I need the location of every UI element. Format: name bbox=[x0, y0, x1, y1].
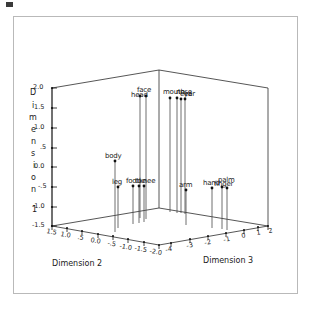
axis-box bbox=[52, 70, 268, 245]
axis-title-dim1-char-7: o bbox=[31, 174, 36, 182]
tick-label-dim3-3: -1 bbox=[223, 236, 231, 244]
tick-label-dim1-0: 2.0 bbox=[33, 84, 43, 91]
marker-mouth bbox=[169, 97, 172, 100]
marker-leg bbox=[117, 186, 120, 189]
point-label-finger: finger bbox=[214, 180, 233, 188]
axis-title-dimension-2: Dimension 2 bbox=[52, 259, 102, 268]
tick-label-dim2-2: .5 bbox=[77, 234, 84, 242]
point-label-body: body bbox=[105, 152, 122, 160]
box-edge-top-right bbox=[159, 70, 268, 88]
tick-label-dim3-2: -2 bbox=[204, 239, 212, 247]
tick-label-dim3-1: -3 bbox=[186, 242, 194, 250]
marker-toe bbox=[138, 185, 141, 188]
axis-title-dim1-char-8: n bbox=[31, 186, 36, 194]
tick-label-dim2-4: -.5 bbox=[107, 240, 117, 248]
point-label-ear: ear bbox=[184, 90, 195, 98]
tick-label-dim1-2: 1.0 bbox=[34, 124, 44, 131]
marker-eye bbox=[180, 98, 183, 101]
scatter3d-canvas bbox=[0, 0, 313, 309]
point-label-arm: arm bbox=[179, 181, 192, 189]
tick-label-dim1-4: 0.0 bbox=[34, 163, 44, 170]
marker-arm bbox=[185, 189, 188, 192]
tick-label-dim3-0: -4 bbox=[165, 246, 173, 254]
marker-foot bbox=[132, 185, 135, 188]
axis-title-dim1-char-5: s bbox=[31, 150, 35, 158]
stem-lines bbox=[115, 96, 227, 232]
tick-label-dim1-1: 1.5 bbox=[34, 104, 44, 111]
axis-title-dim1-char-4: n bbox=[31, 138, 36, 146]
box-edge-floor-back-right bbox=[159, 208, 268, 226]
tick-label-dim1-5: -.5 bbox=[38, 183, 47, 190]
point-label-head: head bbox=[131, 91, 148, 99]
marker-body bbox=[114, 160, 117, 163]
axis-title-dimension-3: Dimension 3 bbox=[203, 256, 253, 265]
marker-nose bbox=[176, 97, 179, 100]
tick-label-dim1-7: -1.5 bbox=[32, 222, 45, 229]
point-label-leg: leg bbox=[112, 178, 122, 186]
tick-label-dim1-6: -1.0 bbox=[32, 203, 45, 210]
point-label-knee: knee bbox=[139, 177, 155, 185]
marker-knee bbox=[143, 185, 146, 188]
marker-ear bbox=[184, 98, 187, 101]
box-edge-floor-back-left bbox=[52, 208, 159, 226]
tick-label-dim1-3: .5 bbox=[40, 144, 46, 151]
axis-title-dim1-char-2: m bbox=[29, 114, 37, 122]
axis-line-dimension-3 bbox=[159, 226, 268, 245]
marker-hand bbox=[211, 187, 214, 190]
chart-page: D i m e n s i o n 1 2.0 1.5 1.0 .5 0.0 -… bbox=[0, 0, 313, 309]
